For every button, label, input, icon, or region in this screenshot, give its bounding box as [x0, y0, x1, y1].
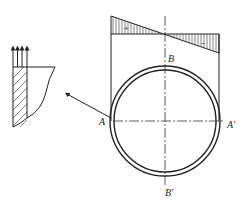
negative-sign: −	[201, 39, 206, 48]
label-b: B	[168, 53, 174, 64]
label-b-prime: B'	[165, 187, 174, 198]
pipe-stress-diagram: + − A A' B B'	[0, 0, 251, 201]
positive-sign: +	[124, 24, 129, 33]
stress-arrows	[13, 48, 27, 67]
label-a: A	[98, 116, 106, 127]
detail-break-line	[13, 67, 55, 127]
detail-leader-arrow	[67, 94, 111, 118]
label-a-prime: A'	[226, 119, 236, 130]
positive-stress-hatch	[113, 10, 161, 40]
wall-detail	[13, 48, 55, 134]
pipe-cross-section	[110, 16, 223, 185]
